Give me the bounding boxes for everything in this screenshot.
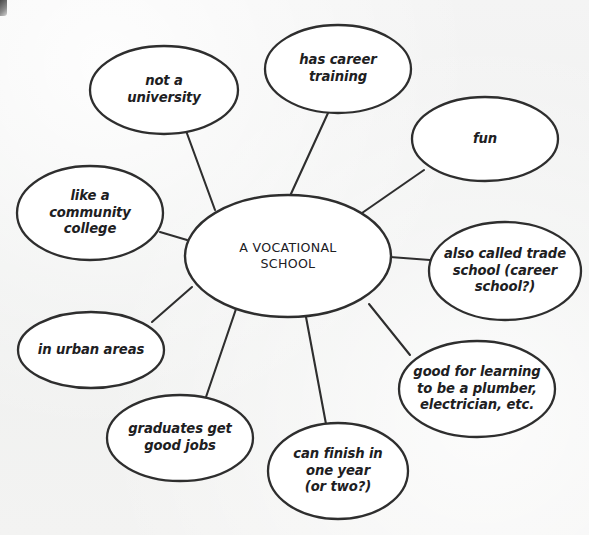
- node-ellipse-has-career-training[interactable]: [265, 25, 411, 113]
- link-has-career-training: [290, 113, 328, 196]
- link-not-a-university: [185, 128, 215, 210]
- link-good-for-learning-trades: [369, 304, 410, 355]
- bubble-map-canvas: not a universityhas career trainingfunal…: [0, 0, 589, 535]
- node-ellipse-center[interactable]: [185, 195, 391, 317]
- link-graduates-get-good-jobs: [206, 309, 236, 397]
- link-like-a-community-college: [160, 232, 187, 240]
- node-ellipse-in-urban-areas[interactable]: [18, 312, 164, 388]
- node-ellipse-not-a-university[interactable]: [90, 46, 238, 134]
- node-ellipses: [17, 25, 581, 519]
- node-ellipse-can-finish-in-one-year[interactable]: [268, 423, 408, 519]
- node-ellipse-good-for-learning-trades[interactable]: [399, 341, 555, 437]
- node-ellipse-graduates-get-good-jobs[interactable]: [107, 395, 253, 481]
- node-ellipse-fun[interactable]: [412, 97, 558, 181]
- link-can-finish-in-one-year: [306, 317, 326, 424]
- link-fun: [362, 170, 424, 213]
- link-also-called-trade-school: [390, 257, 430, 260]
- link-in-urban-areas: [152, 287, 192, 322]
- node-ellipse-also-called-trade-school[interactable]: [429, 222, 581, 320]
- node-ellipse-like-a-community-college[interactable]: [17, 166, 163, 260]
- bubble-map-graphics: [0, 0, 589, 535]
